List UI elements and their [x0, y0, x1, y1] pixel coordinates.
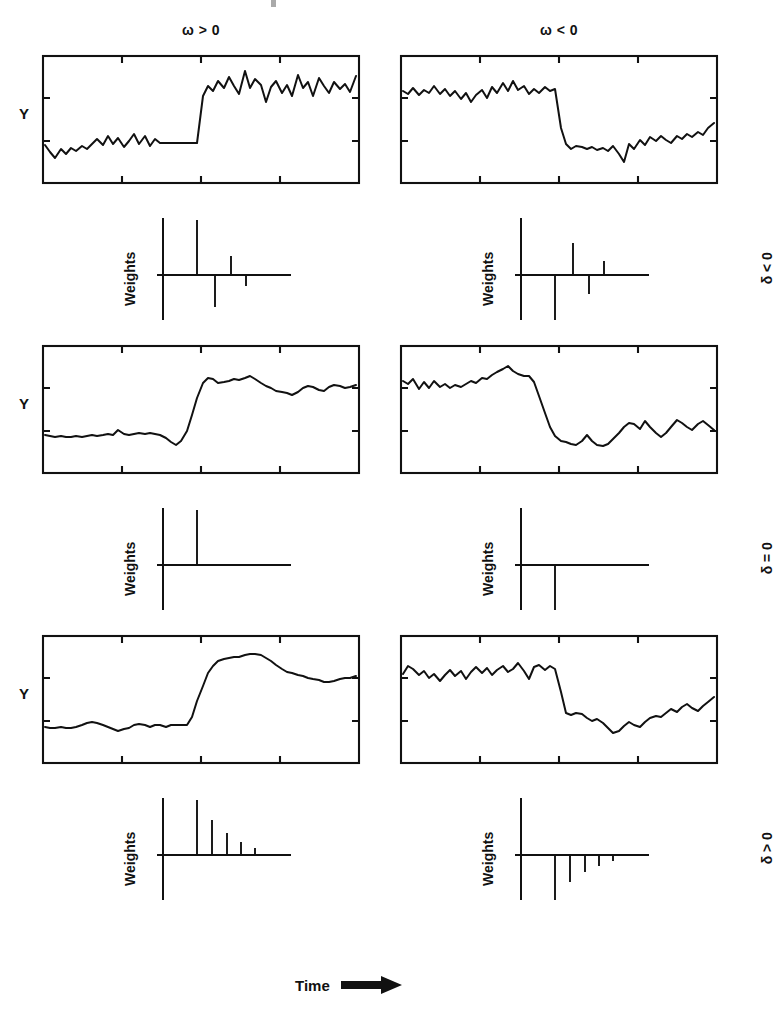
- series-line: [45, 71, 356, 158]
- weights-label-delta-positive-omega-negative: Weights: [480, 832, 496, 886]
- weights-label-delta-negative-omega-positive: Weights: [122, 252, 138, 306]
- weights-label-delta-zero-omega-negative: Weights: [480, 542, 496, 596]
- weights-panel-delta-positive-omega-negative: [513, 794, 658, 904]
- weights-panel-delta-negative-omega-negative: [513, 214, 658, 324]
- series-line: [403, 663, 714, 733]
- series-line: [403, 81, 714, 162]
- series-panel-delta-zero-omega-negative: [400, 345, 718, 474]
- y-axis-label-row1: Y: [19, 105, 29, 122]
- series-panel-delta-negative-omega-positive: [42, 55, 360, 184]
- series-panel-delta-positive-omega-negative: [400, 635, 718, 764]
- weights-label-delta-positive-omega-positive: Weights: [122, 832, 138, 886]
- scan-artifact: [271, 0, 276, 7]
- weights-panel-delta-zero-omega-positive: [155, 504, 300, 614]
- series-line: [45, 376, 356, 445]
- y-axis-label-row3: Y: [19, 685, 29, 702]
- row-label-delta-zero: δ = 0: [759, 542, 775, 574]
- column-header-omega-negative: ω < 0: [400, 22, 718, 38]
- series-line: [45, 654, 356, 731]
- series-panel-delta-positive-omega-positive: [42, 635, 360, 764]
- row-label-delta-positive: δ > 0: [759, 832, 775, 864]
- weights-panel-delta-zero-omega-negative: [513, 504, 658, 614]
- time-axis-caption: Time: [295, 975, 403, 995]
- series-line: [403, 366, 714, 446]
- weights-label-delta-zero-omega-positive: Weights: [122, 542, 138, 596]
- weights-panel-delta-positive-omega-positive: [155, 794, 300, 904]
- series-panel-delta-negative-omega-negative: [400, 55, 718, 184]
- column-header-omega-positive: ω > 0: [42, 22, 360, 38]
- y-axis-label-row2: Y: [19, 395, 29, 412]
- time-axis-label: Time: [295, 977, 330, 994]
- right-arrow-icon: [341, 975, 403, 995]
- row-label-delta-negative: δ < 0: [759, 252, 775, 284]
- weights-panel-delta-negative-omega-positive: [155, 214, 300, 324]
- series-panel-delta-zero-omega-positive: [42, 345, 360, 474]
- weights-label-delta-negative-omega-negative: Weights: [480, 252, 496, 306]
